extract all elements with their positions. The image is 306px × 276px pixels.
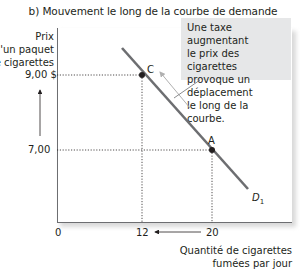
x-axis-label-line: Quantité de cigarettes xyxy=(180,244,292,257)
point-c-label: C xyxy=(147,64,154,75)
callout-pointer xyxy=(174,80,200,98)
point-a xyxy=(209,147,215,153)
x-axis-label-line: fumées par jour xyxy=(180,257,292,270)
curve-label: D1 xyxy=(252,192,264,206)
y-tick-9: 9,00 $ xyxy=(25,69,57,80)
point-c xyxy=(139,72,145,78)
curve-label-name: D xyxy=(252,192,260,203)
x-axis-label: Quantité de cigarettes fumées par jour xyxy=(180,244,292,270)
demand-curve-d1 xyxy=(122,48,248,189)
point-a-label: A xyxy=(208,135,215,146)
x-tick-0: 0 xyxy=(55,227,61,238)
chart-overlay xyxy=(0,0,306,276)
y-tick-7: 7,00 xyxy=(28,144,50,155)
curve-label-subscript: 1 xyxy=(260,198,264,206)
x-tick-12: 12 xyxy=(136,227,149,238)
x-tick-20: 20 xyxy=(206,227,219,238)
